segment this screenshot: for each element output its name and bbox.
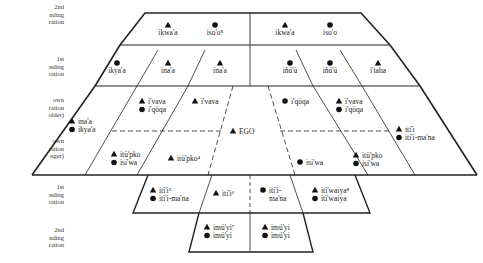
kin-term: iñü'ü [323, 66, 338, 75]
kin-term: isi'wa [120, 158, 138, 167]
kin-term: isi'wa [362, 159, 380, 168]
kin-term: imü'yi [213, 231, 232, 240]
female-circle-icon [336, 107, 342, 113]
kin-cell-r4c4: iti'waiya⁸iti'waiya [312, 186, 350, 204]
kin-cell-r5c2: imü'yiimü'yi [262, 223, 290, 241]
female-circle-icon [327, 60, 333, 66]
kin-cell-r3-left-outer: ina'aikya'a [69, 117, 96, 135]
kin-term: ikya'a [78, 125, 96, 134]
male-triangle-icon [312, 187, 318, 193]
kin-cell-r2c1: ikya'a [108, 60, 126, 75]
female-circle-icon [260, 187, 266, 193]
kin-cell-r2c3: ina'a [213, 60, 228, 75]
kin-cell-r2c6: i'taha [370, 60, 387, 75]
kin-cell-r3-older-right: i'vavai'qöqa [336, 97, 364, 115]
female-circle-icon [150, 196, 156, 202]
male-triangle-icon [165, 60, 171, 66]
male-triangle-icon [213, 190, 219, 196]
kin-cell-r2c4: iñü'ü [283, 60, 298, 75]
kin-term: iñü'ü [283, 66, 298, 75]
male-triangle-icon [150, 187, 156, 193]
kin-term: i'qöqa [345, 105, 364, 114]
kin-cell-r3-younger-mid-left: itü'pko⁴ [168, 154, 201, 163]
female-circle-icon [282, 98, 288, 104]
kin-term: ikwa'a [275, 28, 295, 37]
kin-cell-r3-right-outer: iti'iiti'i-ma'na [396, 125, 436, 143]
kin-term: iso'o [323, 28, 337, 37]
male-triangle-icon [192, 98, 198, 104]
female-circle-icon [212, 22, 218, 28]
kin-cell-r2c5: iñü'ü [323, 60, 338, 75]
kin-term: ikwa'a [158, 28, 178, 37]
kin-cell-r2c2: ina'a [161, 60, 176, 75]
male-triangle-icon [230, 128, 236, 134]
kin-cell-r3-younger-mid-right: isi'wa [297, 158, 324, 167]
female-circle-icon [69, 127, 75, 133]
kin-term: i'vava [201, 97, 219, 106]
kin-cell-r3-younger-right: itü'pkoisi'wa [353, 151, 383, 169]
kin-term: i'qöqa [291, 97, 310, 106]
male-triangle-icon [262, 224, 268, 230]
male-triangle-icon [168, 155, 174, 161]
male-triangle-icon [165, 22, 171, 28]
kin-cell-r4c2: iti'i⁶ [213, 189, 235, 198]
female-circle-icon [204, 233, 210, 239]
male-triangle-icon [336, 98, 342, 104]
kin-term: iti'waiya [321, 194, 347, 203]
male-triangle-icon [217, 60, 223, 66]
kin-term: ma'na [269, 194, 287, 203]
kin-cell-ego: EGO [230, 127, 255, 136]
kin-term: EGO [239, 127, 255, 136]
kin-cell-r1c1: ikwa'a [158, 22, 178, 37]
kin-term: iti'i-ma'na [405, 133, 435, 142]
kin-cell-r1c4: iso'o [323, 22, 337, 37]
kin-term: isi'wa [306, 158, 324, 167]
kin-cell-r3-younger-left: itü'pkoisi'wa [111, 150, 141, 168]
kinship-diagram: 2nd nding ration 1st nding ration own ra… [0, 0, 483, 263]
kin-term: iti'i⁶ [222, 189, 235, 198]
kin-cell-r1c2: iso'o⁸ [207, 22, 224, 37]
kin-cell-r4c3: iti'i-ma'na [260, 186, 287, 204]
kin-cell-r3-older-left: i'vavai'qöqa [139, 97, 167, 115]
kin-term: iti'i-ma'na [159, 194, 189, 203]
male-triangle-icon [282, 22, 288, 28]
male-triangle-icon [396, 126, 402, 132]
kin-cell-r5c1: imü'yi⁷imü'yi [204, 223, 235, 241]
male-triangle-icon [375, 60, 381, 66]
female-circle-icon [287, 60, 293, 66]
female-circle-icon [114, 60, 120, 66]
kin-term: ikya'a [108, 66, 126, 75]
kin-cell-r3-older-mid-right: i'qöqa [282, 97, 309, 106]
kin-cell-r3-older-mid-left: i'vava [192, 97, 219, 106]
female-circle-icon [262, 233, 268, 239]
kin-term: ina'a [213, 66, 228, 75]
female-circle-icon [139, 107, 145, 113]
female-circle-icon [327, 22, 333, 28]
male-triangle-icon [111, 151, 117, 157]
kin-term: imü'yi [271, 231, 290, 240]
female-circle-icon [312, 196, 318, 202]
kin-term: itü'pko⁴ [177, 154, 201, 163]
kin-term: i'qöqa [148, 105, 167, 114]
kin-term: iso'o⁸ [207, 28, 224, 37]
female-circle-icon [353, 161, 359, 167]
kin-term: ina'a [161, 66, 176, 75]
kin-cell-r1c3: ikwa'a [275, 22, 295, 37]
female-circle-icon [111, 160, 117, 166]
kinship-grid: ikwa'aiso'o⁸ikwa'aiso'oikya'aina'aina'ai… [0, 0, 483, 263]
female-circle-icon [297, 159, 303, 165]
female-circle-icon [396, 135, 402, 141]
kin-term: i'taha [370, 66, 387, 75]
male-triangle-icon [204, 224, 210, 230]
kin-cell-r4c1: iti'i⁵iti'i-ma'na [150, 186, 190, 204]
male-triangle-icon [139, 98, 145, 104]
